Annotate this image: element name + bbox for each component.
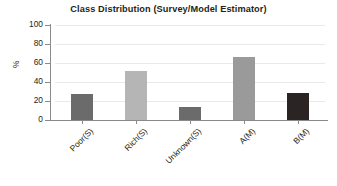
plot-area: [55, 25, 325, 120]
x-tick-mark: [190, 121, 191, 124]
bar: [125, 71, 147, 120]
y-tick-label: 0: [0, 115, 43, 123]
gridline: [55, 25, 325, 26]
y-tick-label: 40: [0, 77, 43, 85]
bar-chart-figure: Class Distribution (Survey/Model Estimat…: [0, 0, 337, 186]
x-tick-label: Poor(S): [3, 126, 95, 186]
bar: [179, 107, 201, 120]
bar: [71, 94, 93, 120]
y-tick-label: 60: [0, 58, 43, 66]
y-tick-label: 100: [0, 20, 43, 28]
x-tick-mark: [298, 121, 299, 124]
gridline: [55, 101, 325, 102]
gridline: [55, 44, 325, 45]
y-axis-line: [50, 24, 51, 121]
y-tick-label: 20: [0, 96, 43, 104]
x-tick-mark: [244, 121, 245, 124]
bar: [287, 93, 309, 120]
gridline: [55, 82, 325, 83]
x-axis-line: [50, 120, 328, 121]
chart-title: Class Distribution (Survey/Model Estimat…: [0, 4, 337, 14]
bar: [233, 57, 255, 120]
x-tick-mark: [136, 121, 137, 124]
gridline: [55, 63, 325, 64]
x-tick-mark: [82, 121, 83, 124]
y-tick-label: 80: [0, 39, 43, 47]
